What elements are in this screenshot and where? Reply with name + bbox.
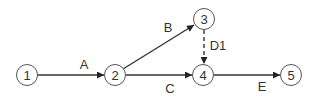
edge-b [123, 25, 194, 69]
svg-text:4: 4 [199, 68, 206, 83]
svg-text:2: 2 [111, 68, 118, 83]
node-1: 1 [17, 65, 38, 86]
edge-label-c: C [165, 81, 174, 96]
svg-text:5: 5 [287, 68, 294, 83]
svg-text:3: 3 [200, 12, 207, 27]
node-3: 3 [194, 9, 215, 30]
node-2: 2 [105, 65, 126, 86]
node-5: 5 [281, 65, 302, 86]
svg-text:1: 1 [23, 68, 30, 83]
network-diagram: A B C D1 E 1 2 3 4 5 [0, 0, 316, 99]
edge-label-a: A [80, 57, 89, 72]
edge-label-d1: D1 [210, 38, 227, 53]
node-4: 4 [193, 65, 214, 86]
edge-label-e: E [258, 79, 267, 94]
edge-label-b: B [164, 20, 173, 35]
